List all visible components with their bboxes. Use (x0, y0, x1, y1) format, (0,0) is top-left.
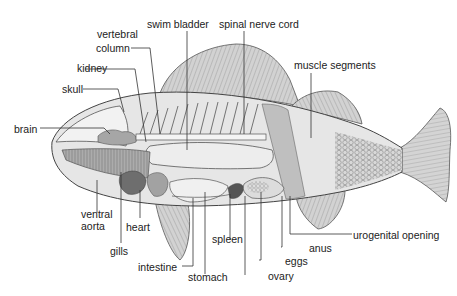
label-urogenital-opening: urogenital opening (353, 229, 439, 241)
label-kidney: kidney (77, 62, 107, 74)
label-brain: brain (14, 123, 37, 135)
label-stomach: stomach (188, 271, 228, 283)
leader-lines (0, 0, 457, 296)
label-heart: heart (126, 221, 150, 233)
label-gills: gills (110, 245, 128, 257)
leader-intestine (182, 198, 193, 266)
leader-kidney (85, 69, 146, 142)
label-ventral-aorta-line2: aorta (81, 220, 105, 232)
label-ventral-aorta-line1: ventral (81, 208, 113, 220)
label-vertebral-column-line1: vertebral (97, 28, 138, 40)
label-ovary: ovary (268, 270, 294, 282)
label-spleen: spleen (212, 233, 243, 245)
leader-urogenital-opening (290, 196, 352, 234)
label-eggs: eggs (285, 255, 308, 267)
leader-anus (281, 196, 282, 247)
label-spinal-nerve-cord: spinal nerve cord (219, 18, 299, 30)
label-intestine: intestine (138, 261, 177, 273)
label-skull: skull (62, 83, 83, 95)
label-muscle-segments: muscle segments (294, 59, 376, 71)
leader-vertebral-column (131, 48, 160, 134)
leader-eggs (259, 192, 261, 260)
label-swim-bladder: swim bladder (147, 18, 209, 30)
leader-skull (83, 89, 124, 112)
fish-anatomy-diagram: swim bladder spinal nerve cord vertebral… (0, 0, 457, 296)
label-vertebral-column-line2: column (96, 42, 130, 54)
leader-brain (40, 128, 110, 134)
label-anus: anus (309, 242, 332, 254)
